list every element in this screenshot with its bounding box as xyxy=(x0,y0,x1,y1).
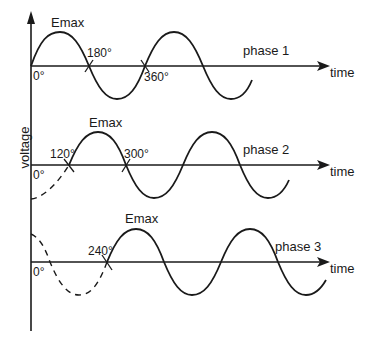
phase-1-name-label: phase 1 xyxy=(243,44,289,57)
phase-2-0deg-label: 0° xyxy=(33,169,44,181)
phase-1-emax-label: Emax xyxy=(51,16,84,29)
phase-3-time-label: time xyxy=(330,262,355,275)
phase-1-0deg-label: 0° xyxy=(33,70,44,82)
phase-2-300deg-label: 300° xyxy=(124,148,149,160)
phase-2-emax-label: Emax xyxy=(89,116,122,129)
phase-3-0deg-label: 0° xyxy=(33,266,44,278)
three-phase-diagram xyxy=(0,0,368,341)
phase-3-emax-label: Emax xyxy=(125,212,158,225)
phase-3-name-label: phase 3 xyxy=(275,240,321,253)
phase-2-name-label: phase 2 xyxy=(243,143,289,156)
axis-arrow-up-icon xyxy=(27,11,35,24)
phase-1-180deg-label: 180° xyxy=(87,47,112,59)
phase-2-time-label: time xyxy=(330,165,355,178)
phase-1-360deg-label: 360° xyxy=(144,71,169,83)
phase-1-time-label: time xyxy=(330,66,355,79)
phase-3-240deg-label: 240° xyxy=(88,245,113,257)
y-axis-label: voltage xyxy=(17,118,32,178)
phase-2-120deg-label: 120° xyxy=(50,148,75,160)
